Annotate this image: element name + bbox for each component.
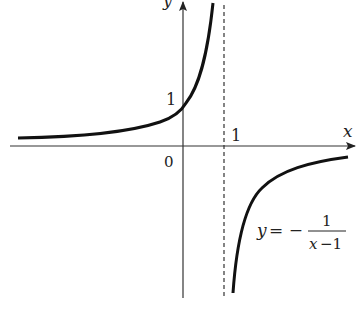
formula-denominator-x: x	[309, 235, 318, 253]
function-graph: y x 0 1 1 y = − 1 x −1	[0, 0, 360, 317]
formula-numerator: 1	[322, 212, 332, 230]
x-axis-label: x	[343, 121, 353, 141]
x-tick-label-1: 1	[231, 126, 241, 145]
curve-left-branch	[18, 3, 213, 138]
formula-lhs: y	[256, 220, 267, 240]
y-tick-label-1: 1	[166, 90, 176, 109]
formula-denominator-rest: −1	[320, 235, 342, 253]
formula-eq: = −	[269, 220, 303, 240]
y-axis-label: y	[162, 0, 173, 10]
origin-label: 0	[164, 153, 174, 171]
function-formula: y = − 1 x −1	[256, 212, 346, 253]
